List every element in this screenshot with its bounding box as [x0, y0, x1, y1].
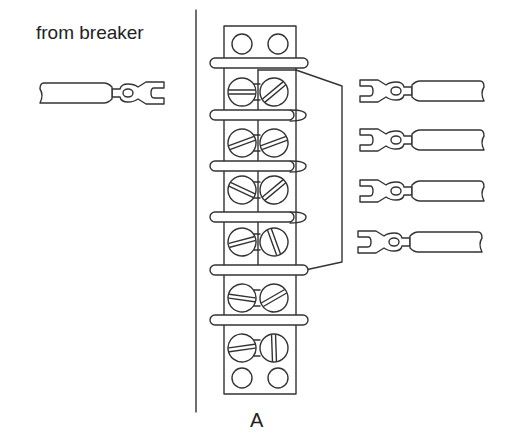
output-fork-connectors	[358, 80, 484, 253]
jumper-outline	[296, 70, 342, 272]
terminal-block-diagram	[0, 0, 524, 440]
input-fork-connector	[40, 82, 164, 104]
